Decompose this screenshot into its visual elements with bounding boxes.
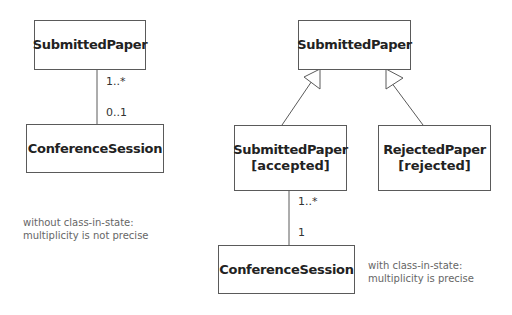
- class-name: SubmittedPaper: [33, 37, 148, 53]
- class-conference-session-right: ConferenceSession: [218, 245, 355, 294]
- note-without-class-in-state: without class-in-state: multiplicity is …: [23, 216, 149, 242]
- multiplicity-label: 1..*: [298, 195, 318, 208]
- class-conference-session-left: ConferenceSession: [26, 124, 164, 173]
- multiplicity-label: 1: [298, 226, 305, 239]
- note-line: multiplicity is not precise: [23, 229, 149, 242]
- multiplicity-label: 0..1: [106, 106, 127, 119]
- note-line: with class-in-state:: [368, 259, 474, 272]
- class-name: SubmittedPaper: [233, 142, 348, 158]
- rejected-generalization-line: [391, 82, 423, 125]
- class-name: ConferenceSession: [219, 262, 353, 278]
- note-line: multiplicity is precise: [368, 272, 474, 285]
- class-rejected-paper: RejectedPaper [rejected]: [378, 125, 491, 191]
- note-line: without class-in-state:: [23, 216, 149, 229]
- class-name: ConferenceSession: [28, 141, 162, 157]
- multiplicity-label: 1..*: [106, 75, 126, 88]
- state-label: [accepted]: [251, 158, 330, 174]
- class-submitted-paper-parent: SubmittedPaper: [298, 20, 411, 70]
- class-name: SubmittedPaper: [297, 37, 412, 53]
- note-with-class-in-state: with class-in-state: multiplicity is pre…: [368, 259, 474, 285]
- state-label: [rejected]: [398, 158, 470, 174]
- generalization-arrowhead-icon: [304, 69, 320, 89]
- class-submitted-paper-accepted: SubmittedPaper [accepted]: [234, 125, 347, 191]
- class-submitted-paper-left: SubmittedPaper: [34, 20, 146, 70]
- class-name: RejectedPaper: [383, 142, 486, 158]
